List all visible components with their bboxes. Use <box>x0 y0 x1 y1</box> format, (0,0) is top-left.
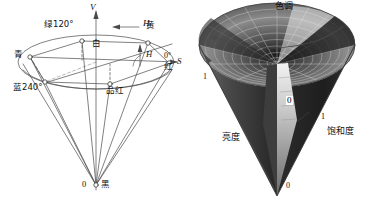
label-yellow: 黄 <box>146 21 155 30</box>
s-axis <box>30 57 178 62</box>
vertex-blue <box>43 80 47 84</box>
hsv-hexcone-wireframe <box>0 0 185 207</box>
hidden-center-line <box>45 62 96 82</box>
vertex-black <box>94 183 98 187</box>
label-black-zero: 0 <box>82 180 86 189</box>
label-saturation: 饱和度 <box>327 127 354 136</box>
label-saturation-min: 0 <box>286 96 293 105</box>
label-brightness: 亮度 <box>222 133 240 142</box>
oblique-axis <box>48 44 172 82</box>
cone-edges <box>23 41 172 185</box>
label-brightness-min: 0 <box>286 182 290 190</box>
axis-label-s: S <box>177 57 182 66</box>
label-green-120: 绿120° <box>44 20 73 29</box>
label-magenta: 品红 <box>106 86 124 95</box>
label-black: 黑 <box>101 180 110 189</box>
axis-label-v: V <box>90 3 96 12</box>
hue-angle-arrow <box>138 44 143 66</box>
hue-angle-label: H <box>146 50 152 59</box>
label-saturation-max: 1 <box>320 113 326 121</box>
vertex-yellow <box>146 41 150 45</box>
hsv-figure: V H H S 绿120° 黄 青 白 0° 红 蓝240° 品红 0 黑 <box>0 0 369 207</box>
vertex-green <box>80 39 84 43</box>
label-cyan: 青 <box>14 50 23 59</box>
label-red-angle: 0° <box>164 52 171 60</box>
hsv-solid-cone-render <box>185 0 369 207</box>
label-white: 白 <box>92 39 101 48</box>
vertex-cyan <box>28 55 32 59</box>
label-red: 红 <box>164 62 173 71</box>
hue-direction-arrow <box>112 25 139 30</box>
label-blue-240: 蓝240° <box>13 83 42 92</box>
label-hue: 色调 <box>275 2 293 11</box>
label-brightness-max: 1 <box>203 73 207 81</box>
